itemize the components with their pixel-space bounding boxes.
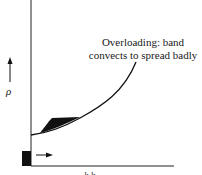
density-gradient-diagram: ρ Overloading: band convects to spread b… — [0, 0, 202, 175]
right-arrow-icon — [36, 153, 53, 158]
sample-block — [22, 151, 31, 166]
x-axis-label: h h — [84, 170, 96, 175]
density-curve — [31, 62, 136, 135]
y-axis-arrow-icon — [8, 57, 13, 82]
band-wedge — [40, 117, 80, 133]
y-axis-label: ρ — [5, 85, 11, 97]
annotation-line-1: Overloading: band — [102, 36, 185, 48]
annotation-line-2: convects to spread badly — [89, 49, 198, 61]
